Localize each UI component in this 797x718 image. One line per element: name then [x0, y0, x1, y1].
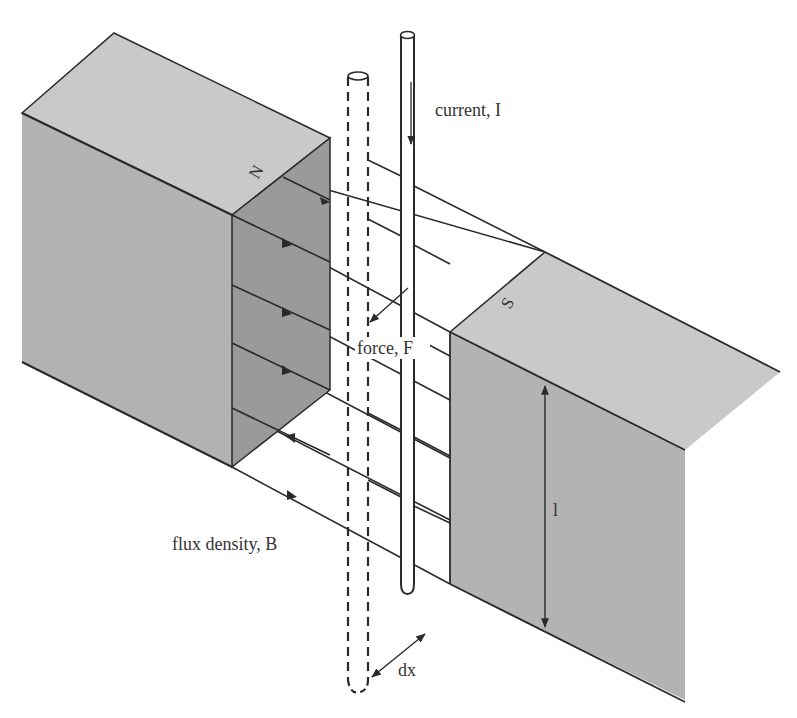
south-magnet: S l [450, 252, 780, 702]
displacement-label: dx [398, 660, 416, 680]
length-label: l [553, 500, 558, 520]
north-magnet: N [22, 33, 330, 467]
conductor [401, 32, 415, 595]
force-label: force, F [357, 338, 413, 358]
magnetic-force-diagram: N S l [0, 0, 797, 718]
displaced-conductor [348, 72, 368, 693]
flux-label: flux density, B [172, 534, 277, 554]
current-label: current, I [435, 100, 501, 120]
